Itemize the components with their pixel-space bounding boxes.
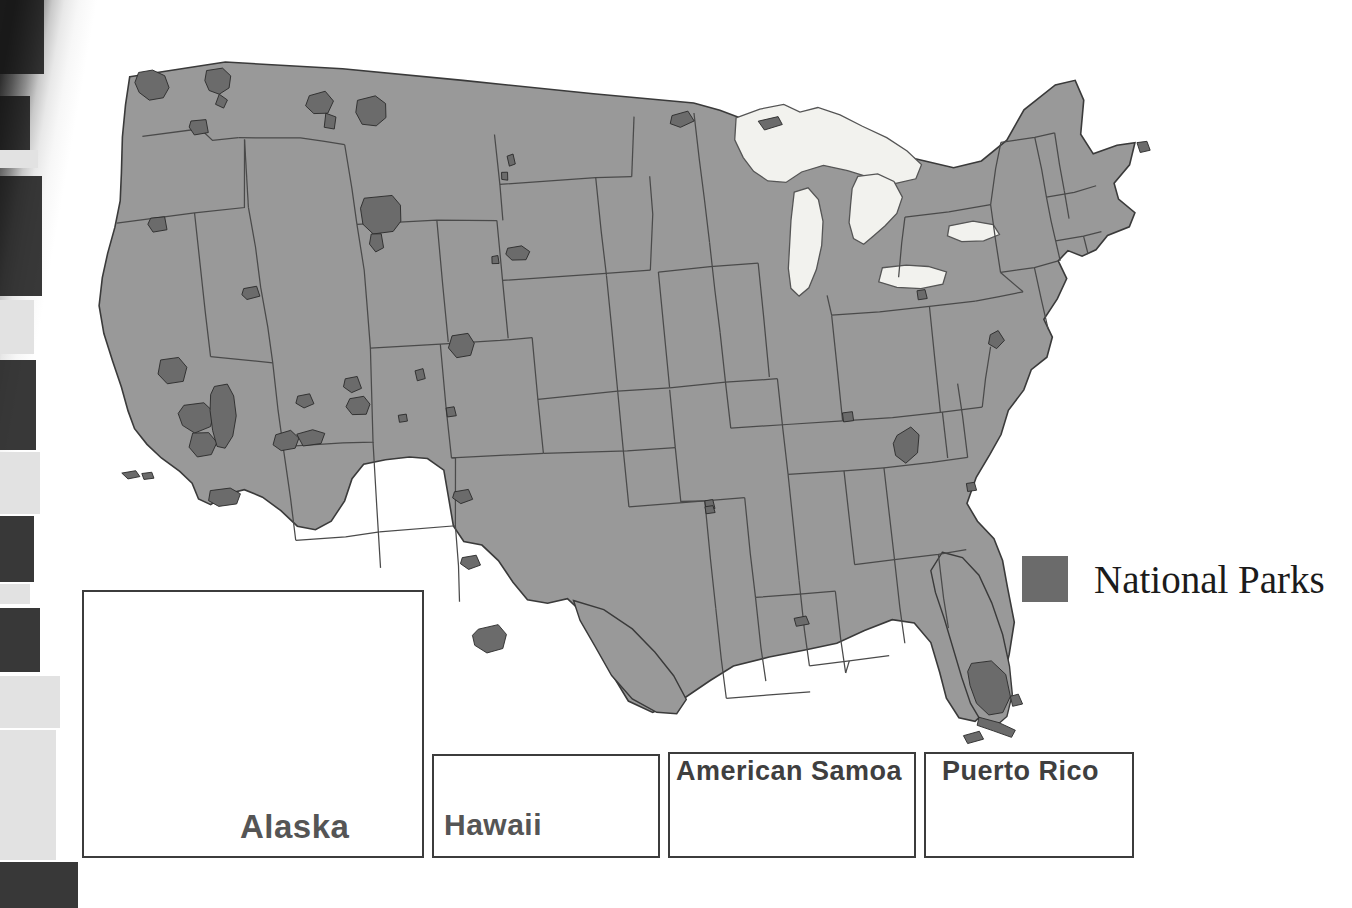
inset-label-american-samoa: American Samoa xyxy=(676,756,902,787)
inset-label-puerto-rico: Puerto Rico xyxy=(942,756,1099,787)
map-legend: National Parks xyxy=(1022,556,1325,602)
inset-box-hawaii xyxy=(432,754,660,858)
inset-label-alaska: Alaska xyxy=(240,808,349,846)
map-page: Alaska Hawaii American Samoa Puerto Rico… xyxy=(0,0,1352,908)
inset-label-hawaii: Hawaii xyxy=(444,808,542,842)
legend-label-national-parks: National Parks xyxy=(1094,557,1325,602)
legend-swatch-national-parks xyxy=(1022,556,1068,602)
